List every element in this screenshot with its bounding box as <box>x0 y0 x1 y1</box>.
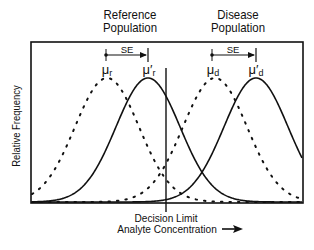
reference-shifted-mean-label: μ′r <box>137 63 161 80</box>
disease-se-label: SE <box>218 43 248 56</box>
reference-shifted-curve <box>32 78 302 202</box>
reference-population-title: Reference Population <box>86 8 174 34</box>
x-axis-arrow-icon <box>222 225 243 233</box>
distribution-curves <box>32 78 302 202</box>
disease-mean-label: μd <box>202 63 224 80</box>
reference-se-label: SE <box>112 43 142 56</box>
reference-mean-label: μr <box>96 63 118 80</box>
y-axis-label: Relative Frequency <box>10 81 22 171</box>
disease-population-title: Disease Population <box>194 8 282 34</box>
disease-shifted-mean-label: μ′d <box>244 63 268 80</box>
x-axis-label: Analyte Concentration <box>115 223 219 236</box>
